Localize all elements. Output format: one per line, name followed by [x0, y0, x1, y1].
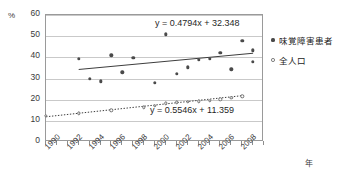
y-axis-tick-label: 40: [14, 50, 40, 60]
chart-legend: 味覚障害患者 全人口: [268, 30, 342, 70]
legend-item-population[interactable]: 全人口: [268, 50, 342, 70]
trendline: [79, 53, 253, 69]
filled-diamond-icon: [268, 38, 278, 41]
plot-area: [45, 14, 263, 141]
trendlines: [46, 15, 264, 142]
scatter-chart: % 年 0102030405060 1990199219941996199820…: [0, 0, 344, 180]
open-circle-icon: [268, 58, 278, 62]
y-axis-tick-label: 10: [14, 114, 40, 124]
trendline-equation-lower: y = 0.5546x + 11.359: [150, 105, 234, 115]
y-axis-tick-label: 50: [14, 29, 40, 39]
legend-item-label: 全人口: [279, 54, 306, 66]
x-axis-unit-label: 年: [305, 157, 313, 168]
legend-item-patients[interactable]: 味覚障害患者: [268, 30, 342, 50]
y-axis-tick-label: 60: [14, 8, 40, 18]
y-axis-tick-label: 20: [14, 93, 40, 103]
trendline-equation-upper: y = 0.4794x + 32.348: [155, 18, 240, 28]
x-axis-tick-mark: [263, 141, 264, 145]
y-axis-tick-label: 0: [14, 135, 40, 145]
legend-item-label: 味覚障害患者: [279, 34, 333, 46]
y-axis-tick-label: 30: [14, 72, 40, 82]
